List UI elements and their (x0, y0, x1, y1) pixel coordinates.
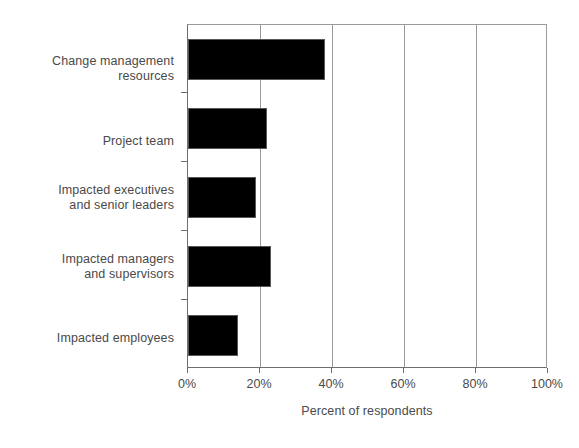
tick-mark-100 (547, 368, 548, 373)
tick-mark-60 (403, 368, 404, 373)
category-label-line-1: Change management (0, 54, 174, 69)
category-label-line-2: resources (0, 69, 174, 84)
category-label-line-2: and senior leaders (0, 198, 174, 213)
category-label-line-1: Impacted managers (0, 252, 174, 267)
category-label-line-1: Project team (0, 134, 174, 149)
bar-impacted-employees (188, 315, 238, 356)
tick-label-0: 0% (178, 377, 196, 392)
tick-mark-0 (187, 368, 188, 373)
bar-change-management-resources (188, 39, 325, 80)
tick-label-100: 100% (531, 377, 563, 392)
bars-layer (188, 25, 546, 367)
tick-mark-80 (475, 368, 476, 373)
category-label-impacted-managers: Impacted managers and supervisors (0, 252, 174, 282)
category-label-line-2: and supervisors (0, 267, 174, 282)
bar-project-team (188, 108, 267, 149)
x-axis-title: Percent of respondents (187, 404, 547, 418)
category-label-project-team: Project team (0, 134, 174, 149)
tick-mark-40 (331, 368, 332, 373)
bar-impacted-managers (188, 246, 271, 287)
tick-label-60: 60% (390, 377, 415, 392)
tick-label-40: 40% (318, 377, 343, 392)
category-axis-labels: Change management resources Project team… (0, 24, 182, 368)
category-label-line-1: Impacted executives (0, 183, 174, 198)
category-label-line-1: Impacted employees (0, 331, 174, 346)
bar-impacted-executives (188, 177, 256, 218)
tick-mark-20 (259, 368, 260, 373)
category-label-change-management-resources: Change management resources (0, 54, 174, 84)
bar-chart: Change management resources Project team… (0, 0, 579, 448)
tick-label-20: 20% (246, 377, 271, 392)
tick-label-80: 80% (462, 377, 487, 392)
category-label-impacted-employees: Impacted employees (0, 331, 174, 346)
category-label-impacted-executives: Impacted executives and senior leaders (0, 183, 174, 213)
plot-area (187, 24, 547, 368)
